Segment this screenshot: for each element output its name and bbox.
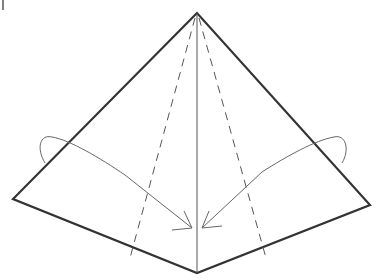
left-fold-arrow [40, 137, 192, 228]
left-valley-fold-line [130, 18, 195, 258]
origami-diagram [0, 0, 380, 280]
kite-outline [13, 13, 370, 273]
right-fold-arrow [202, 137, 346, 228]
